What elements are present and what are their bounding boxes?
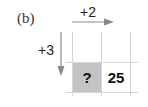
arrows: [0, 0, 148, 107]
vertical-step-label: +3: [38, 42, 54, 58]
down-arrow-icon: [58, 32, 65, 76]
horizontal-step-label: +2: [80, 4, 96, 20]
